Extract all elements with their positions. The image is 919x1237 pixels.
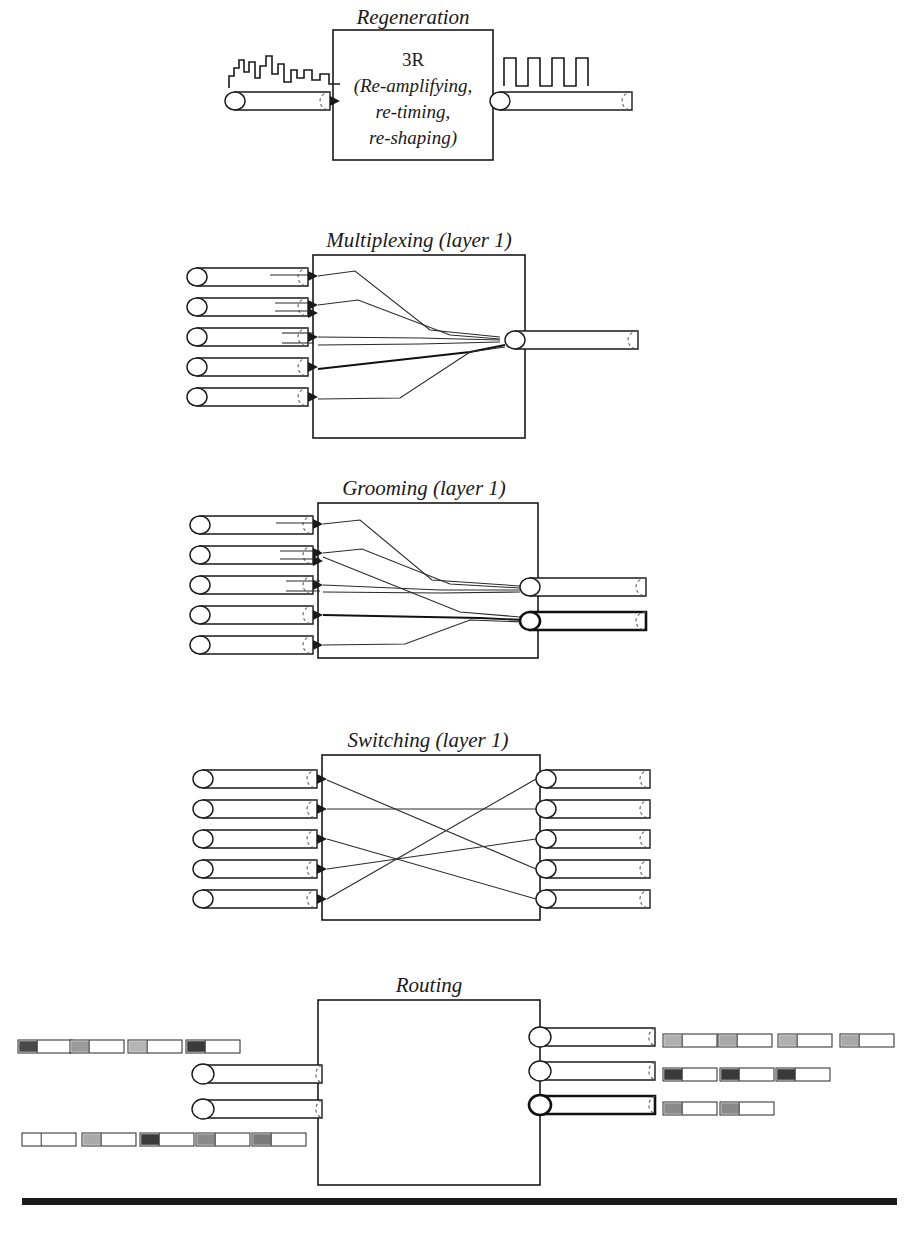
packet (140, 1133, 194, 1146)
packet-header (197, 1134, 215, 1145)
packet (196, 1133, 250, 1146)
grooming-input-fiber-2 (190, 546, 323, 566)
panel-title-switching: Switching (layer 1) (348, 728, 509, 752)
packet (70, 1040, 124, 1053)
packet-header (129, 1041, 147, 1052)
routing-packet-layer (18, 1034, 894, 1146)
switching-input-fiber-4 (193, 860, 327, 878)
multiplexing-input-fiber-1 (187, 268, 318, 286)
regeneration-label-line1: (Re-amplifying, (354, 75, 473, 97)
panel-title-multiplexing: Multiplexing (layer 1) (325, 228, 511, 252)
multiplexing-input-fiber-3 (187, 328, 318, 346)
switching-output-fiber-1 (536, 770, 650, 788)
packet-row-bottom-left (22, 1133, 306, 1146)
network-functions-diagram: Regeneration 3R (Re-amplifying, re-timin… (0, 0, 919, 1237)
routing-input-fiber-1 (192, 1064, 322, 1084)
switching-input-fiber-3 (193, 830, 327, 848)
panel-routing: Routing (18, 973, 894, 1185)
grooming-function-box (318, 503, 538, 658)
regeneration-label-line3: re-shaping) (369, 127, 457, 149)
regeneration-label-3r: 3R (402, 49, 425, 70)
regeneration-input-fiber (225, 92, 340, 110)
routing-output-fiber-3 (529, 1095, 655, 1115)
switching-output-fiber-2 (536, 800, 650, 818)
packet-header (71, 1041, 89, 1052)
packet-header (721, 1103, 739, 1114)
routing-function-box (318, 1000, 540, 1185)
packet-header (841, 1035, 859, 1046)
packet-header (19, 1041, 37, 1052)
panel-switching: Switching (layer 1) (193, 728, 650, 920)
multiplexing-converging-traces (318, 271, 505, 399)
packet-row-right-top (663, 1034, 894, 1047)
routing-output-fiber-1 (529, 1027, 655, 1047)
packet-row-right-bottom (663, 1102, 774, 1115)
packet (128, 1040, 182, 1053)
grooming-output-fiber-2 (520, 612, 646, 630)
packet-row-top-left (18, 1040, 240, 1053)
panel-title-regeneration: Regeneration (355, 5, 469, 29)
packet-header (779, 1035, 797, 1046)
packet-header (721, 1069, 739, 1080)
packet (663, 1068, 717, 1081)
routing-output-fiber-2 (529, 1061, 655, 1081)
multiplexing-input-fiber-2 (187, 298, 318, 318)
switching-crossconnect-traces (327, 779, 536, 899)
packet (18, 1040, 72, 1053)
multiplexing-output-fiber (505, 331, 638, 349)
packet-header (664, 1069, 682, 1080)
packet (663, 1102, 717, 1115)
packet-row-right-middle (663, 1068, 830, 1081)
switching-input-fiber-5 (193, 890, 327, 908)
packet (776, 1068, 830, 1081)
figure-root: Regeneration 3R (Re-amplifying, re-timin… (0, 0, 919, 1237)
routing-input-fiber-2 (192, 1099, 322, 1119)
grooming-input-fiber-1 (190, 516, 323, 534)
panel-multiplexing: Multiplexing (layer 1) (187, 228, 638, 438)
packet-header (777, 1069, 795, 1080)
packet (252, 1133, 306, 1146)
regeneration-label-line2: re-timing, (376, 101, 451, 122)
clean-square-wave-icon (504, 58, 588, 86)
grooming-regrouping-traces (323, 520, 524, 645)
grooming-output-fiber-1 (520, 578, 646, 596)
packet (82, 1133, 136, 1146)
packet-header (664, 1103, 682, 1114)
switching-output-fiber-5 (536, 890, 650, 908)
switching-function-box (322, 755, 540, 920)
packet (663, 1034, 717, 1047)
panel-grooming: Grooming (layer 1) (190, 476, 646, 658)
packet-header (187, 1041, 205, 1052)
panel-regeneration: Regeneration 3R (Re-amplifying, re-timin… (225, 5, 632, 160)
grooming-input-fiber-4 (190, 606, 323, 624)
packet (720, 1068, 774, 1081)
panel-title-routing: Routing (395, 973, 463, 997)
grooming-input-fiber-3 (190, 576, 323, 594)
switching-input-fiber-2 (193, 800, 327, 818)
packet-header (253, 1134, 271, 1145)
packet (22, 1133, 76, 1146)
noisy-signal-icon (229, 56, 340, 88)
panel-title-grooming: Grooming (layer 1) (342, 476, 506, 500)
packet (186, 1040, 240, 1053)
regeneration-output-fiber (490, 92, 632, 110)
packet-header (83, 1134, 101, 1145)
switching-output-fiber-3 (536, 830, 650, 848)
packet-header (664, 1035, 682, 1046)
bottom-horizontal-rule (22, 1198, 897, 1205)
packet-header (141, 1134, 159, 1145)
grooming-input-fiber-5 (190, 636, 323, 654)
multiplexing-input-fiber-4 (187, 358, 318, 376)
multiplexing-input-fiber-5 (187, 388, 318, 406)
packet (840, 1034, 894, 1047)
packet-header (23, 1134, 41, 1145)
switching-output-fiber-4 (536, 860, 650, 878)
packet (778, 1034, 832, 1047)
packet (718, 1034, 772, 1047)
packet-header (719, 1035, 737, 1046)
packet (720, 1102, 774, 1115)
switching-input-fiber-1 (193, 770, 327, 788)
